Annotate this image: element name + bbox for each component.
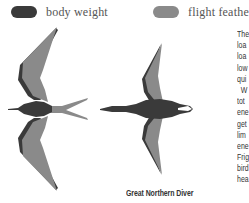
text-fragment: lim: [237, 130, 249, 141]
text-fragment: loa: [237, 40, 249, 51]
text-fragment: get: [237, 119, 249, 130]
text-fragment: ene: [237, 141, 249, 152]
side-text-column: The loa loa low qui W tot ene get lim en…: [237, 29, 249, 186]
text-fragment: ene: [237, 107, 249, 118]
bird-silhouettes: [0, 0, 249, 203]
text-fragment: loa: [237, 51, 249, 62]
text-fragment: The: [237, 29, 249, 40]
frigatebird-silhouette: [8, 27, 88, 191]
text-fragment: low: [237, 63, 249, 74]
great-northern-diver-silhouette: [100, 43, 193, 175]
text-fragment: hea: [237, 174, 249, 185]
text-fragment: Frig: [237, 152, 249, 163]
figure-caption: Great Northern Diver: [126, 188, 193, 198]
text-fragment: tot: [237, 96, 249, 107]
text-fragment: bird: [237, 163, 249, 174]
text-fragment: W: [237, 85, 249, 96]
text-fragment: qui: [237, 74, 249, 85]
